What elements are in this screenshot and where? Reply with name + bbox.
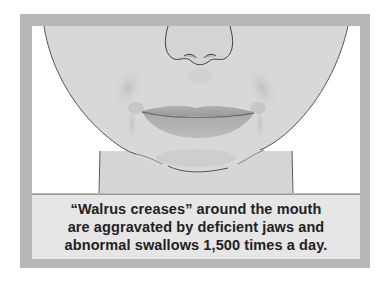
face-drawing	[32, 26, 360, 193]
figure-frame: “Walrus creases” around the mouth are ag…	[20, 14, 370, 268]
caption-panel: “Walrus creases” around the mouth are ag…	[32, 194, 360, 259]
caption-line-1: “Walrus creases” around the mouth	[65, 200, 328, 218]
face-illustration	[32, 26, 360, 193]
caption-line-3: abnormal swallows 1,500 times a day.	[65, 236, 328, 254]
caption-text: “Walrus creases” around the mouth are ag…	[65, 200, 328, 254]
caption-line-2: are aggravated by deficient jaws and	[65, 218, 328, 236]
